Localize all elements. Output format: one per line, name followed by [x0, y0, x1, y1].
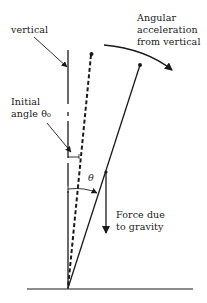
angular-acceleration-label-line3: from vertical [137, 36, 201, 47]
vertical-leader-arrow [34, 37, 67, 67]
angular-acceleration-label-line1: Angular [137, 12, 176, 23]
theta-arc-arrow [68, 189, 97, 194]
force-gravity-label-line1: Force due [116, 209, 165, 220]
pendulum-mass-dot [138, 63, 142, 67]
force-gravity-label-line2: to gravity [116, 221, 163, 232]
angular-acceleration-arrow [104, 45, 172, 70]
vertical-label: vertical [11, 24, 48, 35]
pendulum-rod [68, 65, 140, 288]
initial-angle-label-line2: angle θ₀ [11, 108, 51, 119]
initial-angle-label-line1: Initial [11, 96, 40, 107]
theta-label: θ [88, 172, 94, 183]
angular-acceleration-label-line2: acceleration [137, 24, 198, 35]
initial-mass-dot [90, 52, 94, 56]
